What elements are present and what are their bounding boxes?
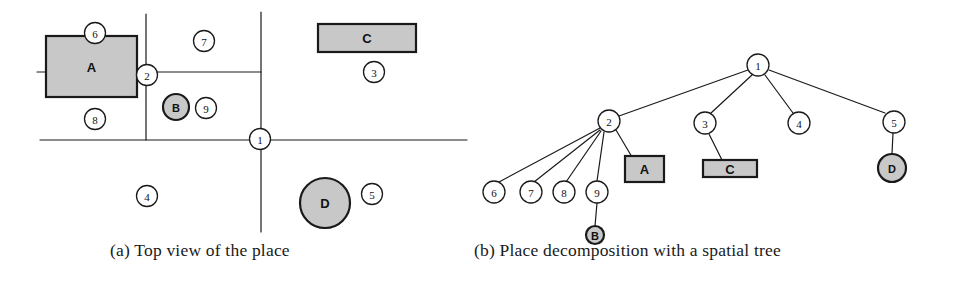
region-node-5: 5 (362, 184, 383, 205)
caption-panel-a: (a) Top view of the place (110, 240, 290, 261)
tree-node-label-3: 3 (702, 118, 708, 130)
region-node-label-1: 1 (257, 134, 263, 146)
tree-node-5: 5 (883, 111, 905, 133)
caption-panel-b: (b) Place decomposition with a spatial t… (474, 240, 781, 261)
object-a: A (46, 36, 137, 97)
tree-node-3: 3 (694, 112, 716, 134)
region-node-7: 7 (194, 31, 215, 52)
region-node-6: 6 (85, 23, 106, 44)
tree-node-label-9: 9 (594, 187, 600, 199)
tree-node-1: 1 (747, 54, 769, 76)
tree-object-c: C (703, 160, 757, 177)
object-d-label: D (320, 196, 329, 211)
region-node-8: 8 (85, 109, 106, 130)
tree-node-9: 9 (586, 181, 608, 203)
tree-object-c-label: C (725, 162, 735, 177)
tree-node-label-2: 2 (606, 116, 612, 128)
tree-node-4: 4 (788, 112, 810, 134)
region-node-4: 4 (137, 186, 158, 207)
region-node-label-8: 8 (92, 114, 98, 126)
tree-node-8: 8 (553, 181, 575, 203)
object-a-label: A (87, 60, 97, 75)
region-node-9: 9 (196, 98, 217, 119)
edge-2-8 (566, 131, 601, 182)
region-node-label-2: 2 (144, 70, 150, 82)
tree-node-6: 6 (483, 181, 505, 203)
region-node-label-9: 9 (203, 103, 209, 115)
tree-node-label-5: 5 (891, 117, 897, 129)
region-node-label-7: 7 (201, 36, 207, 48)
tree-node-label-7: 7 (528, 187, 534, 199)
tree-object-d-label: D (888, 163, 896, 175)
region-node-label-3: 3 (371, 67, 377, 79)
region-node-2: 2 (137, 65, 158, 86)
tree-object-a: A (625, 156, 664, 182)
object-b-label: B (172, 102, 180, 114)
edge-9-b (595, 203, 597, 226)
edge-5-d (892, 133, 893, 154)
region-node-1: 1 (250, 129, 271, 150)
tree-node-label-6: 6 (491, 187, 497, 199)
tree-node-label-8: 8 (561, 187, 567, 199)
panel-b-diagram: ACBD123456789 (460, 0, 955, 250)
tree-object-d: D (878, 154, 906, 182)
tree-object-a-label: A (640, 162, 650, 177)
tree-node-label-1: 1 (755, 60, 761, 72)
object-d: D (300, 178, 350, 228)
region-node-label-5: 5 (369, 189, 375, 201)
edge-1-5 (769, 70, 885, 113)
region-node-3: 3 (364, 62, 385, 83)
panel-a-diagram: ACBD123456789 (0, 0, 480, 235)
object-c-label: C (362, 31, 372, 46)
tree-node-2: 2 (598, 110, 620, 132)
edge-2-9 (597, 132, 604, 181)
region-node-label-6: 6 (92, 28, 98, 40)
edge-1-4 (765, 75, 793, 113)
tree-node-7: 7 (520, 181, 542, 203)
figure-container: ACBD123456789 (a) Top view of the place … (0, 0, 955, 290)
object-c: C (318, 24, 416, 52)
edge-1-2 (619, 70, 748, 116)
object-b: B (163, 94, 189, 120)
tree-node-label-4: 4 (796, 118, 802, 130)
edge-3-c (709, 134, 722, 160)
edge-2-7 (534, 130, 600, 182)
edge-2-a (616, 130, 632, 157)
region-node-label-4: 4 (144, 191, 150, 203)
